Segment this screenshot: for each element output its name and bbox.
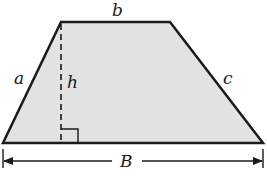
label-height: h — [67, 72, 78, 92]
label-left-side: a — [14, 68, 24, 88]
trapezoid-diagram: b a h c B — [0, 0, 267, 178]
label-right-side: c — [223, 68, 233, 88]
label-top-base: b — [112, 0, 123, 20]
label-bottom-base: B — [119, 151, 133, 171]
